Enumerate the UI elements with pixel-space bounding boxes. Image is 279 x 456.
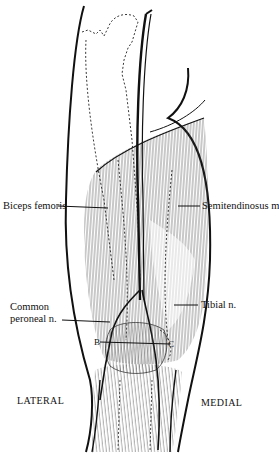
anatomy-diagram: Biceps femoris Semitendinosus m. Common … (0, 0, 279, 456)
label-semitendinosus: Semitendinosus m. (202, 200, 279, 212)
label-biceps-femoris: Biceps femoris (3, 200, 66, 212)
calf-muscles (92, 364, 182, 452)
marker-b: B (94, 336, 100, 348)
leg-illustration (0, 0, 279, 456)
label-common-peroneal-line1: Common (10, 301, 49, 313)
label-tibial-nerve: Tibial n. (201, 299, 236, 311)
label-common-peroneal-line2: peroneal n. (10, 313, 57, 325)
label-medial: MEDIAL (201, 397, 242, 409)
marker-c: C (168, 338, 174, 350)
label-lateral: LATERAL (17, 395, 64, 407)
